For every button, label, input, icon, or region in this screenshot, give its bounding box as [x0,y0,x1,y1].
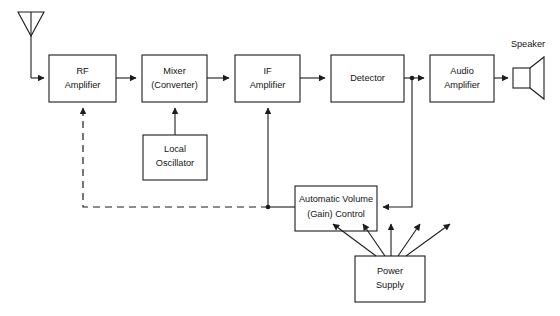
block-power-supply [355,256,425,302]
label-mixer-line1: Mixer [163,66,185,76]
label-avc-line1: Automatic Volume [299,194,373,204]
diagram-svg: Speaker RF Amplifier Mixer (Converter) I… [0,0,560,316]
label-audio-amplifier-line1: Audio [450,66,474,76]
junction-dot-detector-tap [410,76,415,81]
label-rf-amplifier-line1: RF [76,66,89,76]
block-diagram-canvas: Speaker RF Amplifier Mixer (Converter) I… [0,0,560,316]
label-audio-amplifier-line2: Amplifier [444,80,480,90]
antenna-icon [18,12,44,78]
block-audio-amplifier [430,55,494,102]
label-power-supply-line1: Power [377,266,403,276]
label-avc-line2: (Gain) Control [307,209,365,219]
speaker-label: Speaker [511,39,545,49]
label-local-oscillator-line2: Oscillator [156,158,194,168]
block-mixer [142,55,207,102]
block-rf-amplifier [49,55,116,102]
label-if-amplifier-line1: IF [263,66,272,76]
wire-psu-branch-4 [398,224,420,256]
label-mixer-line2: (Converter) [151,80,197,90]
label-local-oscillator-line1: Local [164,144,186,154]
wire-psu-branch-5 [406,224,450,256]
label-power-supply-line2: Supply [376,280,404,290]
label-rf-amplifier-line2: Amplifier [65,80,101,90]
label-detector-line1: Detector [350,73,385,83]
block-if-amplifier [235,55,300,102]
label-if-amplifier-line2: Amplifier [250,80,286,90]
speaker-icon [513,57,544,99]
